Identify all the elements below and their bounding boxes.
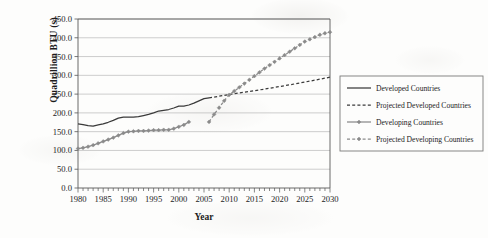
y-axis-tick-label: 150.0 xyxy=(53,127,72,137)
gridlines xyxy=(75,19,331,188)
data-point-marker xyxy=(81,146,85,150)
data-point-marker xyxy=(323,31,327,35)
series-line xyxy=(209,32,330,122)
data-point-marker xyxy=(142,129,146,133)
x-axis-tick-label: 1990 xyxy=(120,194,137,204)
data-point-marker xyxy=(303,40,307,44)
chart-svg: 450.0400.0350.0300.0250.0200.0150.0100.0… xyxy=(0,0,488,238)
data-point-marker xyxy=(318,33,322,37)
x-axis-tick-label: 1995 xyxy=(145,194,162,204)
x-axis-tick-label: 2015 xyxy=(246,194,263,204)
x-axis-tick-label: 2010 xyxy=(221,194,238,204)
data-point-marker xyxy=(313,35,317,39)
plot-area-border xyxy=(78,19,330,188)
data-point-marker xyxy=(91,143,95,147)
data-point-marker xyxy=(137,129,141,133)
data-point-marker xyxy=(162,128,166,132)
data-point-marker xyxy=(172,127,176,131)
series-developing-countries xyxy=(76,120,191,150)
x-axis-tick-label: 2020 xyxy=(271,194,288,204)
x-axis-tick-label: 2005 xyxy=(195,194,212,204)
data-point-marker xyxy=(116,134,120,138)
data-point-marker xyxy=(328,30,332,34)
data-point-marker xyxy=(247,78,251,82)
x-axis-ticks xyxy=(78,188,330,193)
y-axis-tick-label: 50.0 xyxy=(57,164,72,174)
y-axis-tick-label: 0.0 xyxy=(61,183,72,193)
data-point-marker xyxy=(177,125,181,129)
x-axis-title: Year xyxy=(78,212,330,222)
x-axis-tick-label: 2030 xyxy=(321,194,338,204)
data-point-marker xyxy=(96,141,100,145)
x-axis-tick-label: 2000 xyxy=(170,194,187,204)
data-point-marker xyxy=(127,130,131,134)
legend-item-label[interactable]: Developing Countries xyxy=(376,118,443,127)
energy-consumption-line-chart: Quadrillion BTU (s) Year 450.0400.0350.0… xyxy=(0,0,488,238)
data-series-layer xyxy=(76,30,332,150)
data-point-marker xyxy=(167,128,171,132)
x-axis-tick-label: 1985 xyxy=(95,194,112,204)
data-point-marker xyxy=(357,137,361,141)
data-point-marker xyxy=(86,145,90,149)
legend-item-label[interactable]: Projected Developing Countries xyxy=(376,135,473,144)
legend-item-label[interactable]: Developed Countries xyxy=(376,84,440,93)
data-point-marker xyxy=(101,140,105,144)
data-point-marker xyxy=(273,60,277,64)
y-axis-tick-label: 100.0 xyxy=(53,145,72,155)
x-axis-tick-label: 2025 xyxy=(296,194,313,204)
y-axis-title: Quadrillion BTU (s) xyxy=(49,0,59,120)
data-point-marker xyxy=(357,120,361,124)
chart-legend[interactable]: Developed CountriesProjected Developed C… xyxy=(340,76,483,151)
data-point-marker xyxy=(132,129,136,133)
series-projected-developing-countries xyxy=(207,30,332,124)
legend-item-label[interactable]: Projected Developed Countries xyxy=(376,101,471,110)
x-axis-tick-labels: 1980198519901995200020052010201520202025… xyxy=(69,194,338,204)
x-axis-tick-label: 1980 xyxy=(69,194,86,204)
data-point-marker xyxy=(111,136,115,140)
data-point-marker xyxy=(76,147,80,151)
data-point-marker xyxy=(106,138,110,142)
